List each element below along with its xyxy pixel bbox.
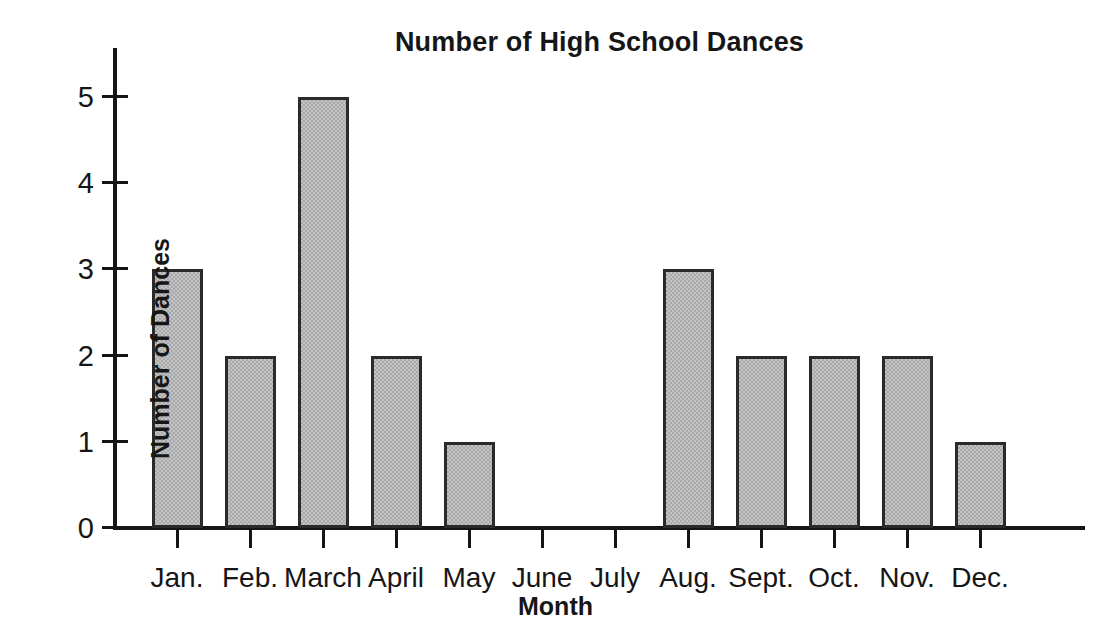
x-tick-mark (395, 526, 398, 548)
x-tick-mark (687, 526, 690, 548)
y-tick-label: 4 (50, 169, 94, 198)
bar (371, 356, 422, 528)
y-axis-title: Number of Dances (146, 159, 175, 539)
bar (663, 269, 714, 528)
x-tick-label: Dec. (910, 564, 1050, 592)
bar (955, 442, 1006, 528)
bar (736, 356, 787, 528)
y-tick-mark (102, 526, 128, 529)
x-tick-mark (249, 526, 252, 548)
chart-title-text: Number of High School Dances (395, 27, 804, 57)
y-tick-mark (102, 440, 128, 443)
y-tick-mark (102, 267, 128, 270)
x-tick-mark (614, 526, 617, 548)
y-tick-mark (102, 181, 128, 184)
bar (225, 356, 276, 528)
x-tick-mark (176, 526, 179, 548)
x-tick-mark (979, 526, 982, 548)
y-tick-label: 1 (50, 428, 94, 457)
plot-area: 012345 Jan.Feb.MarchAprilMayJuneJulyAug.… (113, 96, 1085, 530)
y-tick-label: 2 (50, 342, 94, 371)
y-tick-mark (102, 95, 128, 98)
x-axis-title-text: Month (518, 592, 593, 620)
chart-title: Number of High School Dances (0, 27, 1107, 58)
y-tick-mark (102, 354, 128, 357)
bar (882, 356, 933, 528)
x-axis-title: Month (0, 592, 1107, 621)
x-tick-mark (468, 526, 471, 548)
y-tick-label: 3 (50, 255, 94, 284)
bar (298, 97, 349, 528)
y-axis-line (113, 48, 117, 530)
y-tick-label: 5 (50, 83, 94, 112)
x-tick-mark (760, 526, 763, 548)
bar (444, 442, 495, 528)
x-tick-mark (541, 526, 544, 548)
bar-chart: Number of High School Dances 012345 Jan.… (0, 0, 1107, 641)
x-tick-mark (833, 526, 836, 548)
x-tick-mark (906, 526, 909, 548)
x-tick-mark (322, 526, 325, 548)
y-tick-label: 0 (50, 514, 94, 543)
bar (809, 356, 860, 528)
